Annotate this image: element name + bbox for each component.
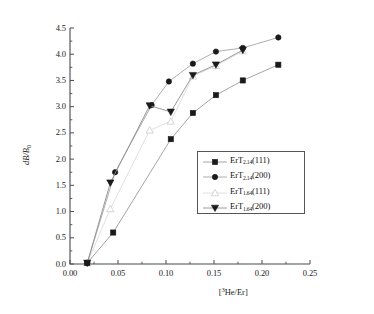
legend-item-ErT1.64(111)[interactable]: ErT1.64(111) xyxy=(198,183,304,199)
data-point-marker xyxy=(213,93,218,98)
y-tick-label: 3.0 xyxy=(34,101,66,111)
chart-figure: dB/B0 [3He/Er] 0.00.51.01.52.02.53.03.54… xyxy=(0,0,374,314)
x-label-superscript: 3 xyxy=(222,287,225,293)
x-tick-label: 0.00 xyxy=(52,268,88,278)
data-point-marker xyxy=(190,110,195,115)
legend-item-ErT2.14(111)[interactable]: ErT2.14(111) xyxy=(198,152,304,168)
legend-item-ErT2.14(200)[interactable]: ErT2.14(200) xyxy=(198,168,304,184)
legend-label: ErT2.14(111) xyxy=(230,155,270,165)
data-point-marker xyxy=(276,35,281,40)
y-tick-label: 4.0 xyxy=(34,49,66,59)
data-point-marker xyxy=(168,137,173,142)
x-tick-label: 0.05 xyxy=(100,268,136,278)
legend-marker-triangle-up-open xyxy=(202,185,228,197)
x-tick-label: 0.25 xyxy=(292,268,328,278)
x-tick-label: 0.20 xyxy=(244,268,280,278)
data-point-marker xyxy=(166,79,171,84)
data-point-marker xyxy=(213,49,218,54)
y-label-subscript: 0 xyxy=(26,145,32,148)
data-point-marker xyxy=(167,109,174,115)
legend-marker-square-filled xyxy=(202,154,228,166)
data-point-marker xyxy=(212,159,217,164)
y-tick-label: 2.5 xyxy=(34,127,66,137)
x-axis-label: [3He/Er] xyxy=(219,287,248,297)
data-point-marker xyxy=(212,175,217,180)
y-axis-label: dB/B0 xyxy=(21,145,31,165)
y-tick-label: 4.5 xyxy=(34,23,66,33)
x-tick-label: 0.10 xyxy=(148,268,184,278)
data-point-marker xyxy=(111,230,116,235)
x-tick-label: 0.15 xyxy=(196,268,232,278)
legend-label: ErT1.64(111) xyxy=(230,186,270,196)
data-point-marker xyxy=(107,205,114,211)
legend-item-ErT1.64(200)[interactable]: ErT1.64(200) xyxy=(198,199,304,215)
y-tick-label: 1.5 xyxy=(34,180,66,190)
y-tick-label: 0.5 xyxy=(34,232,66,242)
data-point-marker xyxy=(107,180,114,186)
legend-label: ErT1.64(200) xyxy=(230,201,270,211)
data-point-marker xyxy=(146,127,153,133)
chart-legend: ErT2.14(111)ErT2.14(200)ErT1.64(111)ErT1… xyxy=(197,151,305,214)
y-tick-label: 0.0 xyxy=(34,259,66,269)
data-point-marker xyxy=(190,61,195,66)
data-point-marker xyxy=(167,118,174,124)
legend-marker-circle-filled xyxy=(202,169,228,181)
y-tick-label: 2.0 xyxy=(34,154,66,164)
legend-label: ErT2.14(200) xyxy=(230,170,270,180)
legend-marker-triangle-down-filled xyxy=(202,200,228,212)
data-point-marker xyxy=(240,78,245,83)
data-point-marker xyxy=(276,62,281,67)
y-tick-label: 3.5 xyxy=(34,75,66,85)
y-tick-label: 1.0 xyxy=(34,206,66,216)
